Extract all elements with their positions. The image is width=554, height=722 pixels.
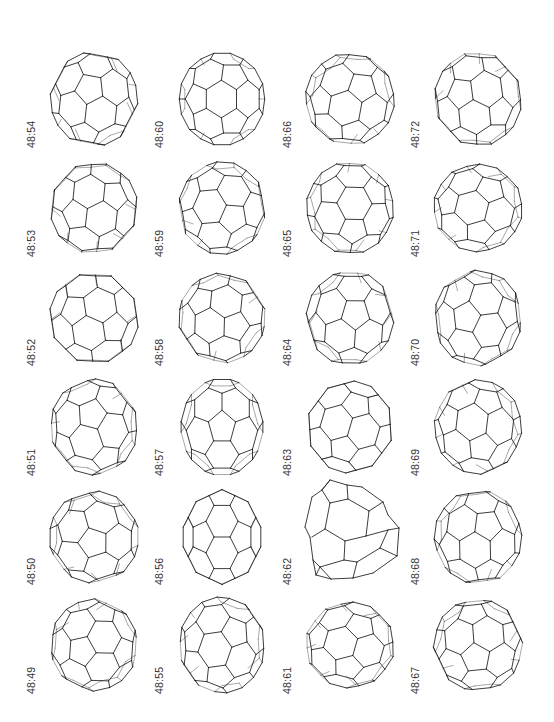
fullerene-isomer-grid: 48:5448:5348:5248:5148:5048:4948:6048:59… xyxy=(0,0,554,722)
fullerene-cage-drawing xyxy=(0,0,554,722)
